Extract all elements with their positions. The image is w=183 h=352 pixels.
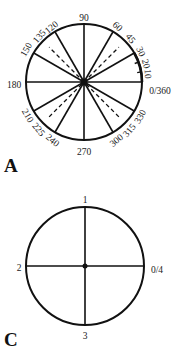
quadrant-labels-c: 120/43 (17, 195, 164, 341)
diagram-canvas: 9060453020100/36012013515018021022524027… (0, 0, 183, 352)
angle-label: 45 (124, 32, 138, 46)
center-dot-c (83, 264, 88, 269)
protractor-diagram-a: 9060453020100/36012013515018021022524027… (4, 13, 171, 176)
angle-label: 2 (17, 263, 22, 273)
angle-label: 10 (142, 69, 153, 80)
center-dot-a (81, 79, 88, 86)
angle-label: 0/360 (149, 86, 171, 96)
angle-label: 3 (83, 331, 88, 341)
quadrant-diagram-c: 120/43 C (4, 195, 163, 350)
angle-label: 0/4 (151, 265, 163, 275)
panel-label-c: C (4, 329, 18, 350)
panel-label-a: A (4, 155, 18, 176)
angle-label: 180 (7, 80, 22, 90)
angle-label: 90 (79, 13, 89, 23)
angle-label: 270 (77, 147, 92, 157)
angle-label: 1 (83, 195, 88, 205)
